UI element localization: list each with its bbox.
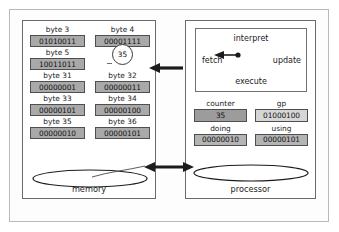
- memory-row: byte 3 01010011 byte 4 00001111: [29, 25, 151, 47]
- register-label: gp: [277, 99, 286, 109]
- fetch-label: fetch: [202, 56, 222, 65]
- circled-address-value: 35: [112, 44, 133, 65]
- memory-panel: byte 3 01010011 byte 4 00001111 byte 5 1…: [22, 20, 156, 199]
- register-label: counter: [206, 99, 234, 109]
- memory-cell-byte-5: byte 5 10011011: [29, 48, 86, 70]
- memory-cell-value: 00000011: [95, 81, 150, 93]
- memory-row: byte 5 10011011 35: [29, 48, 151, 70]
- register-counter: counter 35: [193, 99, 248, 122]
- memory-cell-byte-3: byte 3 01010011: [29, 25, 86, 47]
- memory-cell-byte-35: byte 35 00000010: [29, 117, 86, 139]
- memory-cell-label: byte 3: [46, 25, 70, 35]
- memory-cell-label: byte 33: [43, 94, 71, 104]
- register-label: doing: [210, 124, 231, 134]
- memory-cell-label: byte 4: [111, 25, 135, 35]
- memory-row: byte 33 00000101 byte 34 00000100: [29, 94, 151, 116]
- register-using: using 00000101: [254, 124, 309, 147]
- memory-cell-value: 00000010: [30, 127, 85, 139]
- memory-cell-label: byte 5: [46, 48, 70, 58]
- memory-cell-byte-31: byte 31 00000001: [29, 71, 86, 93]
- memory-cell-label: byte 32: [108, 71, 136, 81]
- memory-row: byte 35 00000010 byte 36 00000101: [29, 117, 151, 139]
- memory-cell-value: 00000101: [30, 104, 85, 116]
- processor-panel: interpret fetch update execute counter 3…: [185, 20, 316, 199]
- processor-panel-label: processor: [186, 184, 315, 194]
- memory-panel-label: memory: [23, 184, 155, 194]
- memory-cell-label: byte 36: [108, 117, 136, 127]
- register-value: 35: [194, 109, 247, 122]
- interpret-cycle-box: interpret fetch update execute: [195, 28, 307, 92]
- interpret-label: interpret: [196, 34, 306, 43]
- memory-byte-grid: byte 3 01010011 byte 4 00001111 byte 5 1…: [29, 25, 151, 140]
- register-row: counter 35 gp 01000100: [193, 99, 309, 122]
- register-value: 00000101: [255, 134, 308, 147]
- update-label: update: [273, 56, 301, 65]
- callout-row: 35: [95, 48, 150, 65]
- memory-cell-value: 01010011: [30, 35, 85, 47]
- memory-cell-label: byte 35: [43, 117, 71, 127]
- register-gp: gp 01000100: [254, 99, 309, 122]
- diagram-canvas: byte 3 01010011 byte 4 00001111 byte 5 1…: [0, 0, 339, 232]
- register-label: using: [272, 124, 292, 134]
- memory-cell-label: byte 34: [108, 94, 136, 104]
- register-value: 01000100: [255, 109, 308, 122]
- register-row: doing 00000010 using 00000101: [193, 124, 309, 147]
- register-doing: doing 00000010: [193, 124, 248, 147]
- memory-cell-value: 00000100: [95, 104, 150, 116]
- register-value: 00000010: [194, 134, 247, 147]
- memory-cell-value: 00000001: [30, 81, 85, 93]
- memory-cell-byte-32: byte 32 00000011: [94, 71, 151, 93]
- memory-cell-byte-36: byte 36 00000101: [94, 117, 151, 139]
- processor-register-grid: counter 35 gp 01000100 doing 00000010 us…: [193, 99, 309, 148]
- memory-cell-label: byte 31: [43, 71, 71, 81]
- execute-label: execute: [196, 77, 306, 86]
- memory-cell-value: 10011011: [30, 58, 85, 70]
- memory-cell-value: 00000101: [95, 127, 150, 139]
- dash-mark: [107, 63, 112, 64]
- memory-row: byte 31 00000001 byte 32 00000011: [29, 71, 151, 93]
- memory-cell-byte-33: byte 33 00000101: [29, 94, 86, 116]
- memory-cell-byte-34: byte 34 00000100: [94, 94, 151, 116]
- memory-address-callout: 35: [94, 48, 151, 70]
